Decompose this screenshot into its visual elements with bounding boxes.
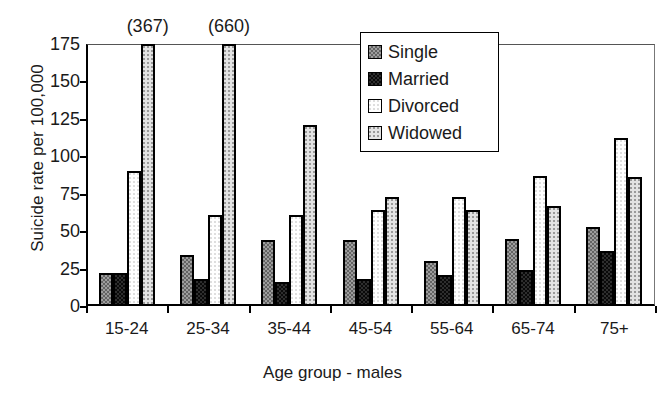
bar — [614, 138, 628, 306]
legend-swatch-icon — [368, 72, 382, 86]
bar — [438, 275, 452, 306]
bar — [424, 261, 438, 306]
clipped-bar-annotation: (660) — [208, 16, 250, 37]
x-tick-label: 25-34 — [186, 319, 229, 339]
x-tick-mark — [249, 306, 251, 313]
x-tick-label: 35-44 — [267, 319, 310, 339]
x-tick-mark — [655, 306, 657, 313]
legend-swatch-icon — [368, 126, 382, 140]
legend: SingleMarriedDivorcedWidowed — [360, 32, 499, 152]
bar — [261, 240, 275, 306]
bar — [208, 215, 222, 306]
bar — [141, 44, 155, 306]
y-tick-label: 100 — [34, 147, 80, 165]
bar — [275, 282, 289, 306]
y-tick-label: 0 — [34, 297, 80, 315]
bar — [385, 197, 399, 306]
legend-item[interactable]: Single — [368, 38, 492, 65]
bar — [194, 279, 208, 306]
y-tick-label: 25 — [34, 260, 80, 278]
legend-item[interactable]: Divorced — [368, 92, 492, 119]
bar-chart: Suicide rate per 100,000 Age group - mal… — [0, 0, 665, 397]
bar — [628, 177, 642, 306]
x-tick-mark — [167, 306, 169, 313]
x-tick-mark — [411, 306, 413, 313]
x-axis-title: Age group - males — [0, 363, 665, 383]
legend-item-label: Single — [388, 43, 438, 61]
x-tick-label: 55-64 — [430, 319, 473, 339]
y-tick-label: 125 — [34, 110, 80, 128]
bar — [127, 171, 141, 306]
legend-item-label: Married — [388, 70, 449, 88]
bar — [466, 210, 480, 306]
legend-item[interactable]: Widowed — [368, 119, 492, 146]
bar — [600, 251, 614, 306]
x-tick-label: 65-74 — [511, 319, 554, 339]
x-tick-label: 75+ — [600, 319, 629, 339]
x-tick-mark — [574, 306, 576, 313]
bar — [452, 197, 466, 306]
bar — [371, 210, 385, 306]
bar — [99, 273, 113, 306]
y-tick-label: 175 — [34, 35, 80, 53]
bar — [547, 206, 561, 306]
y-tick-label: 75 — [34, 185, 80, 203]
bar — [357, 279, 371, 306]
bar — [113, 273, 127, 306]
bar — [180, 255, 194, 306]
bar — [303, 125, 317, 306]
bar — [222, 44, 236, 306]
legend-item[interactable]: Married — [368, 65, 492, 92]
x-tick-mark — [492, 306, 494, 313]
bar — [586, 227, 600, 306]
x-tick-label: 15-24 — [105, 319, 148, 339]
x-tick-mark — [330, 306, 332, 313]
clipped-bar-annotation: (367) — [127, 16, 169, 37]
bar — [343, 240, 357, 306]
bar — [519, 270, 533, 306]
legend-item-label: Widowed — [388, 124, 462, 142]
y-axis: 0255075100125150175 — [0, 0, 80, 397]
legend-swatch-icon — [368, 45, 382, 59]
x-tick-mark — [86, 306, 88, 313]
legend-swatch-icon — [368, 99, 382, 113]
bar — [289, 215, 303, 306]
x-tick-label: 45-54 — [349, 319, 392, 339]
y-tick-label: 150 — [34, 72, 80, 90]
bar — [505, 239, 519, 306]
bar — [533, 176, 547, 306]
legend-item-label: Divorced — [388, 97, 459, 115]
y-tick-label: 50 — [34, 222, 80, 240]
